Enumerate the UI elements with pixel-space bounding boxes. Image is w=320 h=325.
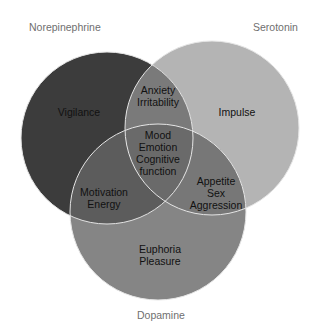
set-label-norepinephrine: Norepinephrine bbox=[29, 21, 101, 33]
region-label-anxiety-irritability: Anxiety Irritability bbox=[137, 84, 179, 108]
region-text: Aggression bbox=[190, 199, 243, 211]
region-text: Motivation bbox=[80, 186, 128, 198]
region-text: Sex bbox=[190, 187, 243, 199]
region-text: Cognitive bbox=[136, 153, 180, 165]
region-text: Mood bbox=[136, 129, 180, 141]
region-label-impulse: Impulse bbox=[219, 106, 256, 118]
region-text: Impulse bbox=[219, 106, 256, 118]
region-text: Energy bbox=[80, 198, 128, 210]
region-text: Vigilance bbox=[58, 106, 100, 118]
set-label-dopamine: Dopamine bbox=[137, 309, 185, 321]
region-text: Appetite bbox=[190, 175, 243, 187]
region-text: function bbox=[136, 165, 180, 177]
region-label-euphoria-pleasure: Euphoria Pleasure bbox=[139, 243, 181, 267]
region-text: Emotion bbox=[136, 141, 180, 153]
region-text: Anxiety bbox=[137, 84, 179, 96]
region-text: Euphoria bbox=[139, 243, 181, 255]
region-text: Pleasure bbox=[139, 255, 181, 267]
region-label-motivation-energy: Motivation Energy bbox=[80, 186, 128, 210]
region-label-vigilance: Vigilance bbox=[58, 106, 100, 118]
region-text: Irritability bbox=[137, 96, 179, 108]
region-label-mood-emotion: Mood Emotion Cognitive function bbox=[136, 129, 180, 177]
set-label-serotonin: Serotonin bbox=[253, 21, 298, 33]
region-label-appetite-sex-aggression: Appetite Sex Aggression bbox=[190, 175, 243, 211]
